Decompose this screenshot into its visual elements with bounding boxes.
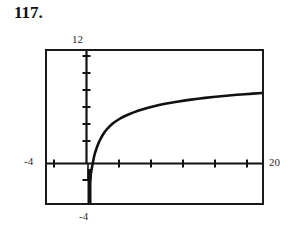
y-axis-min-label: -4 (79, 210, 88, 222)
x-axis-max-label: 20 (269, 156, 280, 168)
problem-number: 117. (14, 2, 43, 24)
graph-plot-svg (47, 51, 262, 203)
y-axis-max-label: 12 (72, 33, 83, 45)
log-curve (90, 93, 261, 181)
graph-window-frame (45, 49, 264, 205)
x-axis-min-label: -4 (24, 155, 33, 167)
plot-area (47, 51, 262, 203)
